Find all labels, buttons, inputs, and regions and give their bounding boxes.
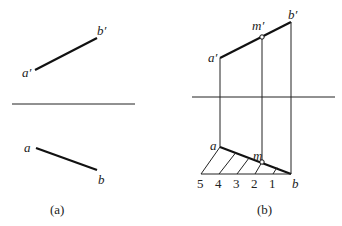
- caption-b: (b): [257, 202, 272, 217]
- division-line-3: [237, 158, 249, 174]
- division-label-4: 4: [215, 176, 222, 191]
- label-a-prime: a′: [208, 50, 218, 65]
- division-label-2: 2: [251, 176, 258, 191]
- label-a-prime: a′: [22, 65, 32, 80]
- division-label-3: 3: [233, 176, 240, 191]
- label-b-prime: b′: [97, 23, 107, 38]
- caption-a: (a): [50, 202, 64, 217]
- orthographic-projection-diagram: a′ b′ a b (a) a′ m′ b′ a m b 5: [0, 0, 342, 226]
- division-label-1: 1: [269, 176, 276, 191]
- figure-b: a′ m′ b′ a m b 5 4 3 2 1 (b): [192, 7, 335, 217]
- label-a: a: [210, 138, 217, 153]
- division-label-5: 5: [197, 176, 204, 191]
- label-a: a: [24, 140, 31, 155]
- label-b-prime: b′: [288, 7, 298, 22]
- front-view-segment-ab-prime: [35, 38, 97, 70]
- label-b: b: [98, 172, 105, 187]
- label-m: m: [253, 148, 262, 163]
- label-b: b: [292, 176, 299, 191]
- label-m-prime: m′: [252, 18, 264, 33]
- division-line-4: [219, 153, 236, 174]
- top-view-segment-ab: [36, 148, 97, 170]
- figure-a: a′ b′ a b (a): [12, 23, 135, 217]
- point-m-prime-marker: [260, 35, 264, 39]
